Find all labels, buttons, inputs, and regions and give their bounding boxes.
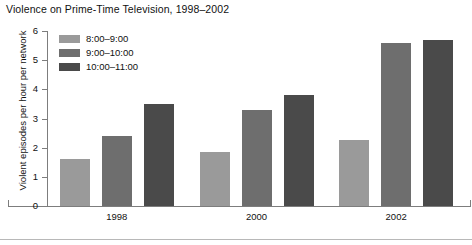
legend-item: 9:00–10:00 xyxy=(59,46,138,59)
y-axis-tick-label: 6 xyxy=(20,25,38,36)
legend-swatch xyxy=(59,49,80,57)
bar xyxy=(144,104,174,206)
chart-legend: 8:00–9:009:00–10:0010:00–11:00 xyxy=(59,32,138,74)
x-axis-line xyxy=(8,206,471,207)
bar xyxy=(242,110,272,206)
legend-item: 10:00–11:00 xyxy=(59,60,138,73)
bar xyxy=(102,136,132,206)
legend-swatch xyxy=(59,63,80,71)
bar xyxy=(60,159,90,206)
x-axis-left-cap xyxy=(8,200,9,207)
x-axis-group-label: 2002 xyxy=(366,211,426,222)
y-axis-tick xyxy=(42,206,48,207)
bar xyxy=(339,140,369,206)
x-axis-group-label: 2000 xyxy=(227,211,287,222)
y-axis-tick-label: 5 xyxy=(20,54,38,65)
legend-label: 10:00–11:00 xyxy=(86,61,138,72)
legend-swatch xyxy=(59,35,80,43)
legend-label: 9:00–10:00 xyxy=(86,47,134,58)
y-axis-tick-label: 1 xyxy=(20,171,38,182)
chart-title: Violence on Prime-Time Television, 1998–… xyxy=(6,3,229,15)
y-axis-tick-label: 3 xyxy=(20,113,38,124)
chart-figure: Violence on Prime-Time Television, 1998–… xyxy=(0,0,472,245)
legend-item: 8:00–9:00 xyxy=(59,32,138,45)
bar xyxy=(284,95,314,206)
x-axis-right-cap xyxy=(470,200,471,207)
bottom-divider xyxy=(0,239,472,240)
bar xyxy=(200,152,230,206)
y-axis-tick-label: 0 xyxy=(20,200,38,211)
bar xyxy=(423,40,453,206)
y-axis-tick-label: 2 xyxy=(20,142,38,153)
y-axis-tick-label: 4 xyxy=(20,83,38,94)
x-axis-group-label: 1998 xyxy=(87,211,147,222)
bar xyxy=(381,43,411,206)
legend-label: 8:00–9:00 xyxy=(86,33,128,44)
